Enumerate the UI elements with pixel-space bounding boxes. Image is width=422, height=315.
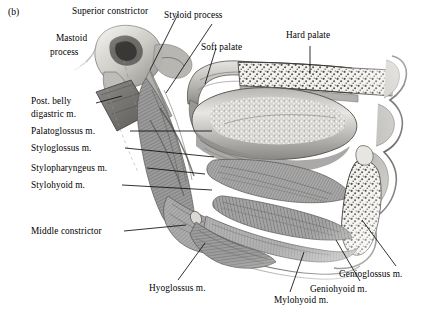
label-post-belly-digastric-line2: digastric m. <box>31 109 76 120</box>
label-mastoid-process-line1: Mastoid <box>56 33 87 44</box>
label-superior-constrictor: Superior constrictor <box>72 6 148 17</box>
label-post-belly-digastric-line1: Post. belly <box>31 96 71 107</box>
label-styloid-process: Styloid process <box>164 10 223 21</box>
label-hard-palate: Hard palate <box>286 30 330 41</box>
panel-identifier: (b) <box>8 6 19 17</box>
label-styloglossus: Styloglossus m. <box>31 143 91 154</box>
label-mastoid-process-line2: process <box>50 47 79 58</box>
anatomy-figure-panel: (b) Superior constrictor Styloid process… <box>0 0 422 315</box>
label-stylohyoid: Stylohyoid m. <box>31 180 85 191</box>
label-middle-constrictor: Middle constrictor <box>31 226 102 237</box>
label-genioglossus: Genioglossus m. <box>339 269 402 280</box>
label-hyoglossus: Hyoglossus m. <box>149 283 206 294</box>
label-stylopharyngeus: Stylopharyngeus m. <box>31 163 107 174</box>
label-soft-palate: Soft palate <box>201 42 242 53</box>
label-geniohyoid: Geniohyoid m. <box>310 284 367 295</box>
label-palatoglossus: Palatoglossus m. <box>31 126 95 137</box>
label-mylohyoid: Mylohyoid m. <box>274 295 328 306</box>
